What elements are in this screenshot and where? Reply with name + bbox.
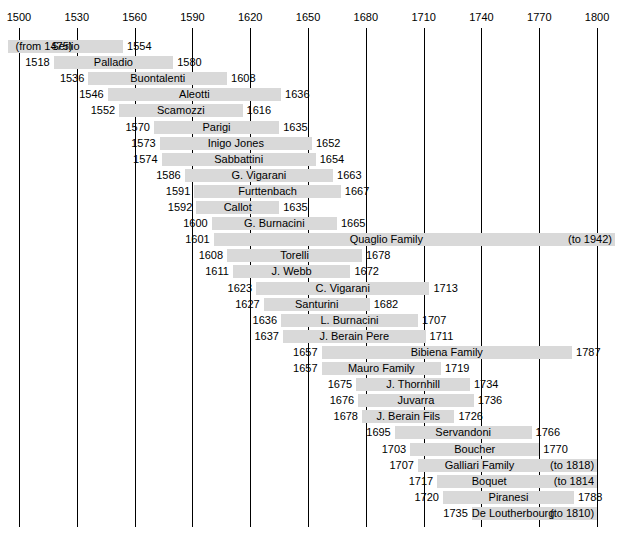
timeline-end-year: 1635 xyxy=(283,201,323,214)
timeline-end-year: 1678 xyxy=(366,249,406,262)
timeline-start-year: 1678 xyxy=(328,410,358,423)
axis-tick-label-1770: 1770 xyxy=(514,11,564,23)
timeline-bar-label: Juvarra xyxy=(358,394,474,407)
timeline-bar-label: Callot xyxy=(196,201,279,214)
timeline-bar-label: Piranesi xyxy=(443,491,574,504)
timeline-end-year: 1667 xyxy=(345,185,385,198)
timeline-end-year: 1707 xyxy=(422,314,462,327)
timeline-start-year: 1707 xyxy=(384,459,414,472)
timeline-row: Boucher17031770 xyxy=(0,443,623,457)
timeline-start-year: 1552 xyxy=(85,104,115,117)
timeline-row: J. Webb16111672 xyxy=(0,265,623,279)
timeline-row: Buontalenti15361608 xyxy=(0,72,623,86)
timeline-bar-label: Boquet xyxy=(437,475,541,488)
timeline-bar-label: G. Burnacini xyxy=(212,217,337,230)
timeline-end-year: 1719 xyxy=(445,362,485,375)
timeline-start-year: 1574 xyxy=(128,153,158,166)
timeline-start-year: 1570 xyxy=(120,121,150,134)
timeline-chart: 1500153015601590162016501680171017401770… xyxy=(0,0,623,545)
timeline-end-year: 1663 xyxy=(337,169,377,182)
timeline-start-year: 1611 xyxy=(199,265,229,278)
timeline-end-year: (to 1942) xyxy=(557,233,612,246)
timeline-end-year: 1736 xyxy=(478,394,518,407)
timeline-bar-label: Furttenbach xyxy=(194,185,340,198)
timeline-bar-label: Quaglio Family xyxy=(214,233,559,246)
axis-tick-label-1590: 1590 xyxy=(167,11,217,23)
timeline-row: Mauro Family16571719 xyxy=(0,362,623,376)
timeline-end-year: 1713 xyxy=(433,282,473,295)
axis-tick-label-1500: 1500 xyxy=(0,11,44,23)
timeline-bar-label: J. Thornhill xyxy=(356,378,470,391)
timeline-start-year: 1717 xyxy=(403,475,433,488)
timeline-start-year: 1623 xyxy=(222,282,252,295)
timeline-end-year: 1787 xyxy=(576,346,616,359)
timeline-row: Sabbattini15741654 xyxy=(0,153,623,167)
timeline-row: Quaglio Family1601(to 1942) xyxy=(0,233,623,247)
timeline-end-year: (to 1814 xyxy=(539,475,594,488)
timeline-start-year: 1601 xyxy=(180,233,210,246)
timeline-start-year: 1592 xyxy=(162,201,192,214)
timeline-start-year: (from 1475) xyxy=(10,40,78,53)
timeline-bar-label: Inigo Jones xyxy=(160,137,312,150)
timeline-bar-label: Sabbattini xyxy=(162,153,316,166)
timeline-row: De Loutherbourg1735(to 1810) xyxy=(0,507,623,521)
timeline-row: Callot15921635 xyxy=(0,201,623,215)
timeline-start-year: 1695 xyxy=(361,426,391,439)
timeline-start-year: 1600 xyxy=(178,217,208,230)
timeline-row: J. Berain Fils16781726 xyxy=(0,410,623,424)
timeline-bar-label: Mauro Family xyxy=(322,362,441,375)
timeline-row: C. Vigarani16231713 xyxy=(0,282,623,296)
timeline-end-year: (to 1810) xyxy=(539,507,594,520)
timeline-bar-label: De Loutherbourg xyxy=(472,507,541,520)
timeline-end-year: 1766 xyxy=(536,426,576,439)
axis-tick-label-1800: 1800 xyxy=(572,11,622,23)
axis-tick-label-1680: 1680 xyxy=(341,11,391,23)
timeline-start-year: 1720 xyxy=(409,491,439,504)
timeline-row: J. Thornhill16751734 xyxy=(0,378,623,392)
timeline-end-year: 1554 xyxy=(127,40,167,53)
timeline-row: L. Burnacini16361707 xyxy=(0,314,623,328)
timeline-row: Servandoni16951766 xyxy=(0,426,623,440)
axis-tick-label-1650: 1650 xyxy=(283,11,333,23)
timeline-end-year: 1635 xyxy=(283,121,323,134)
timeline-end-year: 1636 xyxy=(285,88,325,101)
timeline-row: Parigi15701635 xyxy=(0,121,623,135)
timeline-row: Aleotti15461636 xyxy=(0,88,623,102)
timeline-bar-label: J. Webb xyxy=(233,265,351,278)
timeline-row: G. Vigarani15861663 xyxy=(0,169,623,183)
timeline-end-year: 1726 xyxy=(459,410,499,423)
timeline-start-year: 1536 xyxy=(54,72,84,85)
timeline-bar-label: C. Vigarani xyxy=(256,282,429,295)
axis-tick-label-1710: 1710 xyxy=(399,11,449,23)
timeline-row: Scamozzi15521616 xyxy=(0,104,623,118)
timeline-row: Bibiena Family16571787 xyxy=(0,346,623,360)
axis-tick-label-1560: 1560 xyxy=(110,11,160,23)
timeline-end-year: (to 1818) xyxy=(539,459,594,472)
timeline-start-year: 1637 xyxy=(249,330,279,343)
timeline-bar-label: Torelli xyxy=(227,249,362,262)
timeline-end-year: 1665 xyxy=(341,217,381,230)
timeline-start-year: 1676 xyxy=(324,394,354,407)
timeline-row: G. Burnacini16001665 xyxy=(0,217,623,231)
timeline-end-year: 1672 xyxy=(354,265,394,278)
timeline-row: Boquet1717(to 1814 xyxy=(0,475,623,489)
axis-tick-label-1620: 1620 xyxy=(225,11,275,23)
timeline-start-year: 1627 xyxy=(230,298,260,311)
timeline-row: Palladio15181580 xyxy=(0,56,623,70)
timeline-start-year: 1703 xyxy=(376,443,406,456)
timeline-end-year: 1608 xyxy=(231,72,271,85)
timeline-end-year: 1652 xyxy=(316,137,356,150)
timeline-bar-label: Servandoni xyxy=(395,426,532,439)
timeline-bar-label: L. Burnacini xyxy=(281,314,418,327)
timeline-bar-label: Galliari Family xyxy=(418,459,541,472)
timeline-start-year: 1546 xyxy=(74,88,104,101)
timeline-end-year: 1711 xyxy=(430,330,470,343)
timeline-row: Juvarra16761736 xyxy=(0,394,623,408)
timeline-row: Serlio(from 1475)1554 xyxy=(0,40,623,54)
timeline-end-year: 1770 xyxy=(543,443,583,456)
timeline-bar-label: G. Vigarani xyxy=(185,169,333,182)
timeline-end-year: 1788 xyxy=(578,491,618,504)
timeline-start-year: 1675 xyxy=(322,378,352,391)
timeline-end-year: 1654 xyxy=(320,153,360,166)
timeline-start-year: 1573 xyxy=(126,137,156,150)
